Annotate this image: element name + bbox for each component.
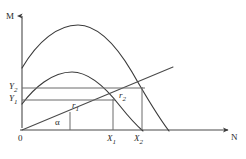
x2-label-sub: 2 (140, 138, 144, 146)
diagram-canvas: M N 0 Y2 Y1 X1 X2 r1 r2 α (0, 0, 246, 159)
n-axis-label: N (231, 133, 238, 142)
r2-label-sub: 2 (123, 95, 127, 103)
r2-label: r2 (119, 91, 126, 103)
diagram-svg (0, 0, 246, 159)
r1-label: r1 (72, 101, 79, 113)
x2-label: X2 (134, 134, 143, 146)
axis-group (20, 16, 228, 130)
origin-label: 0 (18, 134, 23, 143)
origin-ray (22, 67, 173, 130)
y2-label-sub: 2 (14, 86, 18, 94)
r1-label-sub: 1 (76, 105, 80, 113)
x1-label-sub: 1 (113, 138, 117, 146)
y1-label-sub: 1 (14, 98, 18, 106)
y1-label: Y1 (9, 94, 18, 106)
m-axis-label: M (6, 12, 14, 21)
x1-label: X1 (107, 134, 116, 146)
alpha-angle-label: α (55, 118, 60, 127)
